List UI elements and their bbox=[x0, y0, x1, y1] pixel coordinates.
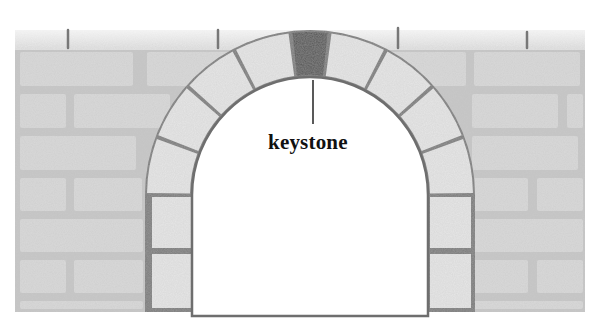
arch-illustration bbox=[0, 0, 597, 318]
brick bbox=[20, 136, 136, 170]
brick bbox=[20, 301, 143, 309]
brick bbox=[20, 52, 133, 86]
brick bbox=[74, 94, 170, 128]
brick bbox=[472, 94, 558, 128]
brick bbox=[472, 219, 583, 252]
brick bbox=[74, 260, 143, 293]
brick bbox=[20, 94, 66, 128]
brick bbox=[537, 260, 583, 293]
arch-diagram: keystone bbox=[0, 0, 597, 318]
brick bbox=[20, 178, 66, 211]
arch-opening bbox=[192, 77, 428, 316]
keystone bbox=[292, 32, 327, 76]
jamb-stone bbox=[152, 254, 193, 308]
brick bbox=[472, 301, 583, 309]
brick bbox=[20, 260, 66, 293]
keystone-label: keystone bbox=[268, 130, 348, 155]
jamb-stone bbox=[430, 254, 471, 308]
brick bbox=[537, 178, 583, 211]
jamb-stone bbox=[152, 197, 193, 248]
brick bbox=[474, 52, 580, 86]
brick bbox=[472, 136, 578, 170]
brick bbox=[74, 178, 142, 211]
brick bbox=[472, 260, 528, 293]
jamb-stone bbox=[430, 197, 471, 248]
brick bbox=[567, 94, 583, 128]
brick bbox=[20, 219, 143, 252]
brick bbox=[472, 178, 528, 211]
